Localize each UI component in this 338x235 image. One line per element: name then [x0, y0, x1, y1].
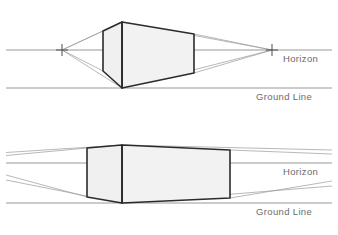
lower-box-left-face	[87, 145, 122, 203]
lower-ground-line-label: Ground Line	[256, 206, 312, 217]
upper-right-vanishing-point-cross-icon	[266, 44, 278, 56]
upper-ground-line-label: Ground Line	[256, 91, 312, 102]
upper-panel: Horizon Ground Line	[6, 22, 332, 102]
lower-box-right-face	[122, 145, 230, 203]
upper-box-right-face	[122, 22, 194, 88]
lower-panel: Horizon Ground Line	[6, 145, 332, 217]
perspective-diagram-canvas: Horizon Ground Line	[0, 0, 338, 235]
upper-left-vanishing-point-cross-icon	[56, 44, 68, 56]
lower-horizon-label: Horizon	[283, 166, 318, 177]
upper-horizon-label: Horizon	[283, 53, 318, 64]
perspective-diagram: Horizon Ground Line	[0, 0, 338, 235]
